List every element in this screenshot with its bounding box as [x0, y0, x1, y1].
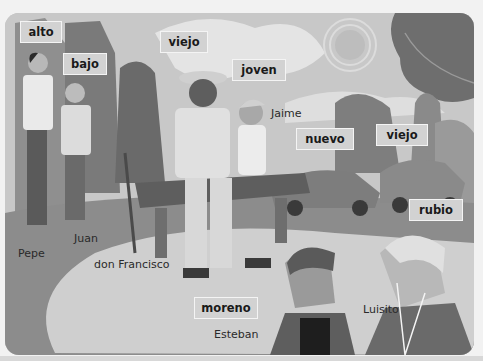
caption-strip-cutoff [0, 356, 483, 361]
name-juan: Juan [74, 232, 98, 245]
label-nuevo: nuevo [296, 128, 354, 150]
name-don-francisco: don Francisco [94, 258, 170, 271]
label-viejo-person: viejo [160, 31, 208, 53]
name-luisito: Luisito [363, 303, 399, 316]
jaime-figure [238, 100, 266, 175]
label-moreno: moreno [194, 297, 258, 319]
illustration-frame: alto bajo viejo joven nuevo viejo rubio … [5, 13, 474, 355]
label-viejo-car: viejo [376, 124, 428, 146]
name-pepe: Pepe [18, 247, 45, 260]
name-jaime: Jaime [271, 107, 302, 120]
label-bajo: bajo [63, 53, 107, 75]
name-esteban: Esteban [214, 328, 258, 341]
label-alto: alto [20, 21, 62, 43]
label-rubio: rubio [409, 199, 463, 221]
label-joven: joven [232, 59, 286, 81]
